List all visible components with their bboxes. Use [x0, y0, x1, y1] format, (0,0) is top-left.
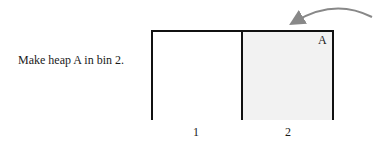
curved-arrow-icon [0, 0, 387, 145]
